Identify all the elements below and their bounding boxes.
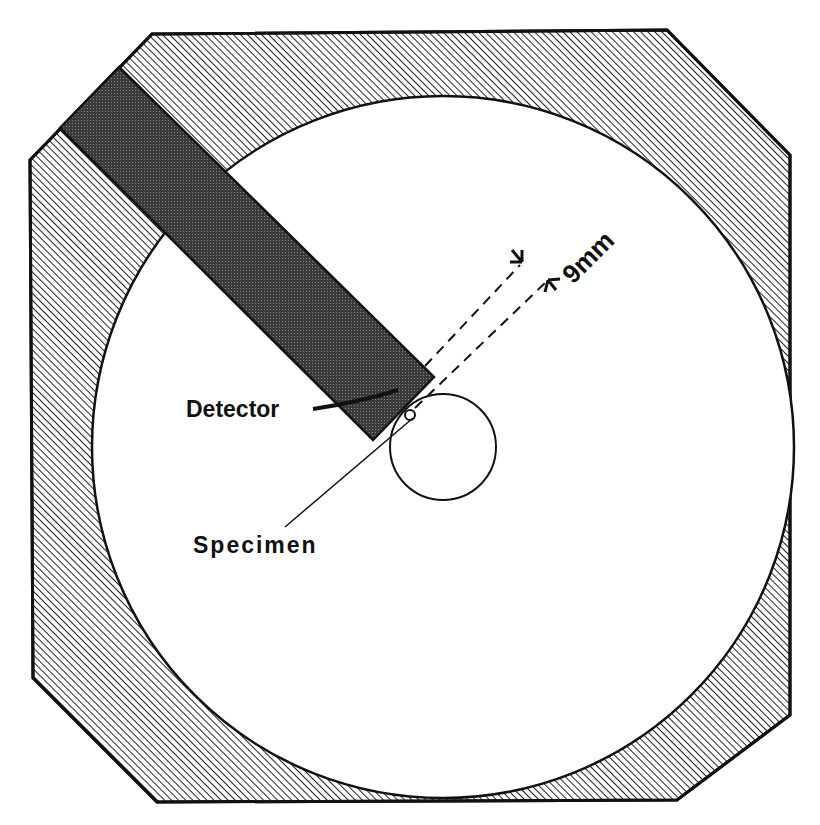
specimen [405, 410, 415, 420]
detector-specimen-diagram: Detector Specimen 9mm [0, 0, 820, 825]
detector-label: Detector [186, 396, 279, 422]
specimen-label: Specimen [193, 532, 318, 558]
